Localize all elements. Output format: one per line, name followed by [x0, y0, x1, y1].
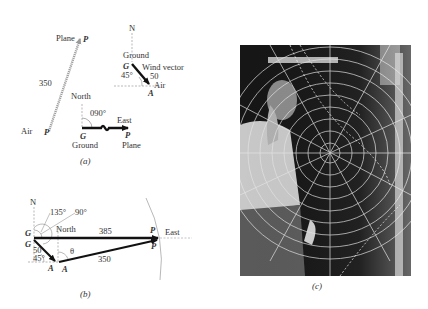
point-a-label: P — [44, 127, 50, 137]
figure-a: Plane P 350 Air P N Ground G Wind vector… — [21, 23, 184, 166]
point-a-left: A — [47, 263, 54, 273]
caption-a: (a) — [80, 156, 91, 166]
point-a-wind-label: A — [147, 88, 154, 98]
heading-090-label: 090° — [90, 108, 106, 118]
point-p-ground-label: P — [125, 130, 131, 140]
north-n-label: N — [129, 23, 135, 33]
vector-diagrams: Plane P 350 Air P N Ground G Wind vector… — [0, 0, 230, 309]
theta-label: θ — [70, 246, 74, 256]
north-label-b: North — [56, 224, 77, 234]
air-vector: Plane P 350 Air P — [21, 33, 89, 137]
ground-label-b: Ground — [72, 140, 99, 150]
angle-90-label: 90° — [75, 207, 87, 217]
caption-c: (c) — [312, 281, 322, 291]
ground-label: Ground — [123, 50, 150, 60]
ground-speed-385: 385 — [99, 226, 112, 236]
caption-b: (b) — [80, 289, 91, 299]
plane-label: Plane — [56, 33, 75, 43]
angle-45-label: 45° — [121, 70, 133, 80]
ground-vector: North 090° East G Ground P Plane — [71, 91, 141, 150]
point-g-upper: G — [25, 228, 32, 238]
north-n-label-b: N — [30, 197, 36, 207]
point-g-lower: G — [25, 239, 32, 249]
air-speed-350: 350 — [98, 254, 111, 264]
air-label: Air — [21, 126, 33, 136]
point-p-lower: P — [151, 241, 157, 251]
point-a-right: A — [61, 264, 68, 274]
angle-135-label: 135° — [50, 207, 66, 217]
wind-vector: N Ground G Wind vector 45° 50 Air A — [114, 23, 184, 98]
magnitude-350-label: 350 — [39, 78, 52, 88]
air-label-wind: Air — [154, 80, 166, 90]
plane-label-ground: Plane — [122, 140, 141, 150]
point-p-upper: P — [150, 225, 156, 235]
east-label: East — [117, 115, 132, 125]
figure-b: N 135° 90° North G G 50 45° A A θ 385 35… — [25, 197, 192, 299]
north-label: North — [71, 91, 92, 101]
east-label-b: East — [165, 227, 180, 237]
point-p-label: P — [83, 34, 89, 44]
angle-45-b-label: 45° — [33, 253, 45, 263]
radar-plotting-photo — [240, 45, 411, 276]
plotting-board-graphic — [240, 45, 411, 276]
wind-vector-label: Wind vector — [142, 62, 184, 72]
